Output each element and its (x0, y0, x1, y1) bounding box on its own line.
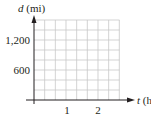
grid-lines (34, 20, 119, 100)
y-axis (32, 15, 37, 104)
distance-time-chart: d (mi) t (hr) 1,200 600 1 2 (0, 0, 151, 118)
y-tick-label-1200: 1,200 (5, 34, 30, 46)
x-tick-label-2: 2 (95, 104, 101, 116)
y-tick-label-600: 600 (14, 64, 31, 76)
x-tick-label-1: 1 (64, 104, 70, 116)
x-axis-arrow-icon (127, 98, 135, 103)
x-axis-label: t (hr) (137, 94, 151, 107)
y-axis-arrow-icon (32, 15, 37, 23)
x-axis (26, 98, 135, 103)
y-axis-label: d (mi) (18, 2, 46, 15)
